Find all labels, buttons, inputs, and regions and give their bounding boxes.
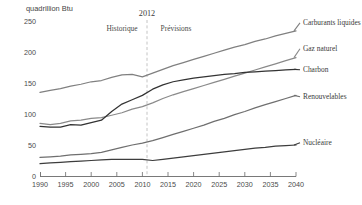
series-label-carburants-liquides: Carburants liquides xyxy=(303,18,361,27)
y-tick-label: 150 xyxy=(24,79,36,88)
historical-region-label: Historique xyxy=(106,24,138,33)
x-tick-label: 2020 xyxy=(186,180,202,189)
series-label-charbon: Charbon xyxy=(303,65,329,74)
x-tick-label: 2000 xyxy=(83,180,99,189)
energy-consumption-chart: quadrillion Btu 050100150200250 19901995… xyxy=(0,0,362,205)
x-tick-label: 2015 xyxy=(160,180,176,189)
chart-svg: quadrillion Btu 050100150200250 19901995… xyxy=(0,0,362,205)
x-axis-tick-labels: 1990199520002005201020152020202520302035… xyxy=(32,180,304,189)
series-label-nucl-aire: Nucléaire xyxy=(303,138,332,147)
x-tick-label: 2040 xyxy=(288,180,304,189)
y-tick-label: 200 xyxy=(24,48,36,57)
forecast-region-label: Prévisions xyxy=(161,24,192,33)
x-tick-label: 1990 xyxy=(32,180,48,189)
y-tick-label: 50 xyxy=(28,141,36,150)
x-tick-label: 1995 xyxy=(58,180,74,189)
x-tick-label: 2035 xyxy=(262,180,278,189)
x-tick-label: 2005 xyxy=(109,180,125,189)
x-tick-label: 2025 xyxy=(211,180,227,189)
divider-year-label: 2012 xyxy=(139,9,155,18)
x-tick-label: 2010 xyxy=(134,180,150,189)
y-tick-label: 100 xyxy=(24,110,36,119)
y-axis-unit-label: quadrillion Btu xyxy=(26,4,73,13)
series-label-renouvelables: Renouvelables xyxy=(303,92,347,101)
x-tick-label: 2030 xyxy=(237,180,253,189)
y-tick-label: 250 xyxy=(24,17,36,26)
series-label-gaz-naturel: Gaz naturel xyxy=(303,44,337,53)
